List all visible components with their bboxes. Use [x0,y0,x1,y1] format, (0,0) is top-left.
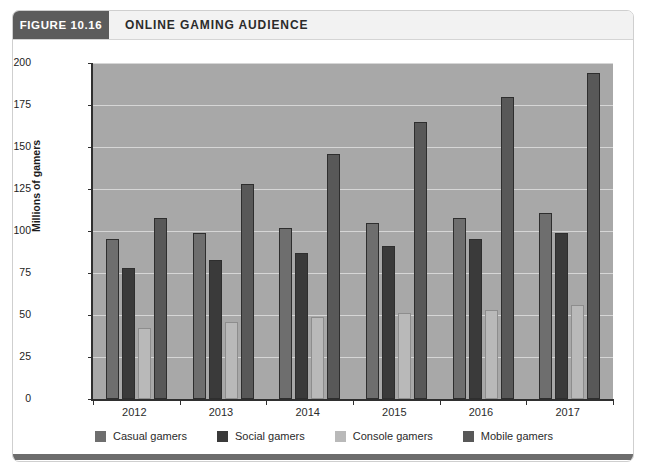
gridline [93,189,613,190]
bar-mobile-gamers-2016 [501,97,514,399]
gridline [93,315,613,316]
figure-card: FIGURE 10.16 ONLINE GAMING AUDIENCE Mill… [12,10,634,462]
figure-bottom-rule [13,454,634,460]
legend-label: Console gamers [353,430,433,442]
bar-console-gamers-2017 [571,305,584,399]
x-axis-label-2015: 2015 [351,406,438,418]
x-tick-mark [526,399,527,405]
legend-item-social-gamers[interactable]: Social gamers [217,430,305,442]
legend-label: Mobile gamers [481,430,553,442]
bar-mobile-gamers-2015 [414,122,427,399]
x-tick-mark [180,399,181,405]
bar-mobile-gamers-2012 [154,218,167,399]
bar-console-gamers-2014 [311,317,324,399]
plot-area [91,63,613,401]
y-tick-label: 25 [12,350,31,362]
gridline [93,63,613,64]
bar-casual-gamers-2015 [366,223,379,399]
bar-console-gamers-2015 [398,313,411,399]
figure-header: FIGURE 10.16 ONLINE GAMING AUDIENCE [13,11,634,40]
legend-swatch-icon [217,431,228,442]
bar-mobile-gamers-2017 [587,73,600,399]
bar-social-gamers-2017 [555,233,568,399]
x-axis-label-2016: 2016 [438,406,525,418]
bar-casual-gamers-2016 [453,218,466,399]
figure-number-badge: FIGURE 10.16 [13,11,109,39]
x-tick-mark [353,399,354,405]
y-tick-label: 50 [12,308,31,320]
x-tick-mark [93,399,94,405]
legend-item-console-gamers[interactable]: Console gamers [335,430,433,442]
bar-mobile-gamers-2013 [241,184,254,399]
y-tick-label: 175 [12,98,31,110]
gridline [93,273,613,274]
gridline [93,147,613,148]
y-tick-label: 150 [12,140,31,152]
bar-console-gamers-2013 [225,322,238,399]
bar-social-gamers-2016 [469,239,482,399]
y-tick-label: 75 [12,266,31,278]
x-axis-label-2014: 2014 [264,406,351,418]
gridline [93,105,613,106]
bar-social-gamers-2015 [382,246,395,399]
bar-social-gamers-2014 [295,253,308,399]
y-tick-label: 100 [12,224,31,236]
y-tick-mark [88,273,93,274]
x-tick-mark [266,399,267,405]
y-tick-mark [88,147,93,148]
bar-social-gamers-2012 [122,268,135,399]
y-tick-label: 125 [12,182,31,194]
y-tick-label: 200 [12,56,31,68]
y-tick-mark [88,231,93,232]
x-axis-label-2013: 2013 [178,406,265,418]
legend-item-mobile-gamers[interactable]: Mobile gamers [463,430,553,442]
chart-legend: Casual gamersSocial gamersConsole gamers… [13,425,634,447]
x-tick-mark [613,399,614,405]
bar-console-gamers-2016 [485,310,498,399]
bar-social-gamers-2013 [209,260,222,399]
legend-item-casual-gamers[interactable]: Casual gamers [95,430,187,442]
chart-region: Millions of gamers 025507510012515017520… [13,40,634,430]
legend-swatch-icon [335,431,346,442]
bar-mobile-gamers-2014 [327,154,340,399]
y-tick-mark [88,105,93,106]
y-tick-label: 0 [12,392,31,404]
y-tick-mark [88,315,93,316]
bar-casual-gamers-2013 [193,233,206,399]
bar-casual-gamers-2012 [106,239,119,399]
legend-label: Casual gamers [113,430,187,442]
y-tick-mark [88,189,93,190]
bar-casual-gamers-2017 [539,213,552,399]
bar-console-gamers-2012 [138,328,151,399]
figure-title: ONLINE GAMING AUDIENCE [125,11,308,39]
y-axis-title: Millions of gamers [30,116,42,256]
legend-label: Social gamers [235,430,305,442]
y-tick-mark [88,63,93,64]
x-axis-label-2012: 2012 [91,406,178,418]
x-tick-mark [440,399,441,405]
legend-swatch-icon [463,431,474,442]
legend-swatch-icon [95,431,106,442]
y-tick-mark [88,357,93,358]
x-axis-label-2017: 2017 [524,406,611,418]
bar-casual-gamers-2014 [279,228,292,399]
gridline [93,231,613,232]
gridline [93,357,613,358]
